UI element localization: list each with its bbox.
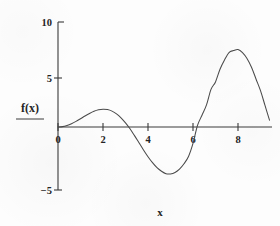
y-tick-label-minus5: −5 [41,185,52,196]
x-tick-label-4: 4 [145,134,151,145]
y-tick-label-5: 5 [47,73,52,84]
y-tick-label-10: 10 [42,17,53,28]
y-axis-label: f(x) [21,101,39,115]
x-tick-label-0: 0 [55,134,60,145]
function-curve [58,49,270,174]
x-axis-label: x [157,206,163,218]
x-tick-label-8: 8 [235,134,240,145]
function-plot: 10 5 −5 0 2 4 6 8 f(x) x [0,0,280,226]
x-tick-label-2: 2 [100,134,105,145]
